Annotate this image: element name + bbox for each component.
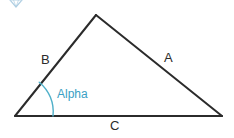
side-label-b: B	[41, 53, 50, 66]
triangle-figure: B A C Alpha	[0, 0, 234, 138]
triangle-side-a-line	[96, 15, 222, 116]
angle-label-alpha: Alpha	[57, 88, 88, 100]
angle-arc-alpha	[39, 82, 53, 116]
side-label-a: A	[164, 51, 173, 64]
side-label-c: C	[110, 119, 119, 132]
